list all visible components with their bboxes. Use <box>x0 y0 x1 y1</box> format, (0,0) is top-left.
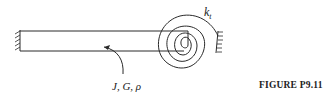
figure-caption: FIGURE P9.11 <box>259 80 323 90</box>
spring-stiffness-label: kt <box>204 5 212 21</box>
property-leader-arrow <box>104 45 123 74</box>
shaft <box>20 31 188 51</box>
left-fixed-support <box>15 30 20 51</box>
arrow-head-icon <box>104 45 110 50</box>
spring-label-subscript: t <box>209 12 211 21</box>
shaft-properties-label: J, G, ρ <box>112 80 141 92</box>
left-wall-hatching <box>15 31 20 50</box>
